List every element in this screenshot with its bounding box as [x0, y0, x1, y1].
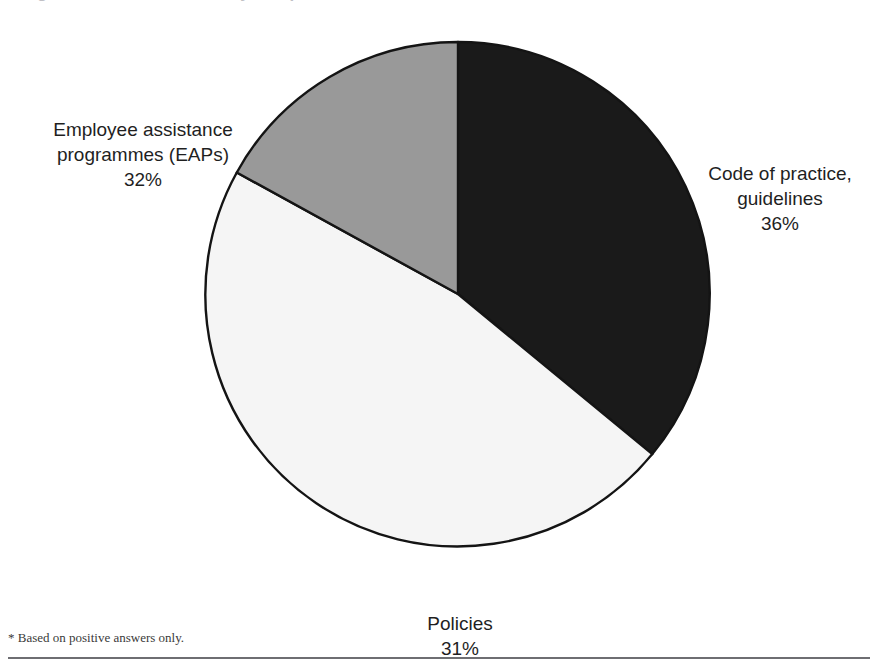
pie-label-code-of-practice-text: Code of practice, guidelines — [708, 163, 852, 209]
pie-label-eaps-text: Employee assistance programmes (EAPs) — [53, 119, 233, 165]
pie-label-eaps: Employee assistance programmes (EAPs) 32… — [18, 92, 268, 217]
chart-footnote: * Based on positive answers only. — [8, 630, 184, 646]
pie-label-eaps-percent: 32% — [18, 167, 268, 192]
footnote-divider — [8, 657, 870, 659]
pie-label-code-of-practice-percent: 36% — [690, 211, 870, 236]
pie-label-code-of-practice: Code of practice, guidelines 36% — [690, 136, 870, 261]
pie-chart: Employee assistance programmes (EAPs) 32… — [0, 0, 876, 618]
pie-label-policies-text: Policies — [427, 613, 492, 634]
